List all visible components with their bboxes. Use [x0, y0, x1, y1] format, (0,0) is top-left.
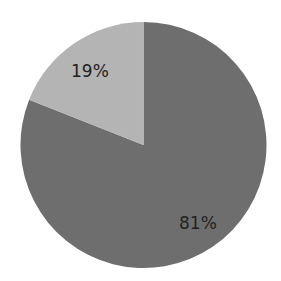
slice-label-small: 19% — [71, 61, 109, 81]
pie-chart: 81% 19% — [0, 0, 281, 281]
pie-slices — [20, 22, 266, 268]
slice-label-large: 81% — [179, 213, 217, 233]
pie-chart-svg: 81% 19% — [0, 0, 281, 281]
